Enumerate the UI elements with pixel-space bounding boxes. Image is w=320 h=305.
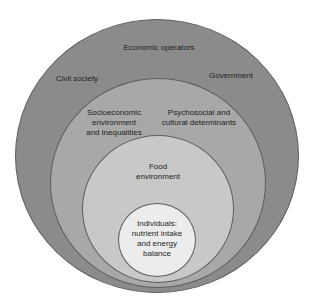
label-economic-operators: Economic operators [104, 43, 214, 53]
label-socioeconomic: Socioeconomic environment and inequaliti… [76, 108, 152, 138]
label-individuals: Individuals: nutrient intake and energy … [118, 219, 196, 259]
label-civil-society: Civil society [42, 74, 112, 84]
label-psychosocial: Psychosocial and cultural determinants [150, 108, 248, 128]
label-food-environment: Food environment [118, 162, 198, 182]
label-government: Government [196, 71, 266, 81]
